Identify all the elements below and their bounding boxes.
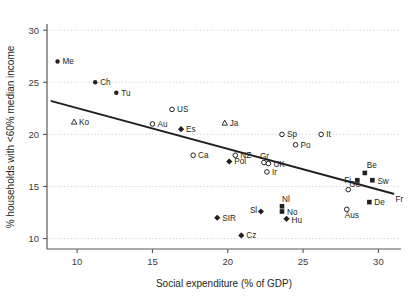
data-point-label: Cz: [246, 231, 256, 240]
marker-open-circle: [280, 132, 285, 137]
data-point-label: Nl: [282, 195, 290, 204]
data-point-label: Au: [157, 120, 167, 129]
marker-filled-circle: [93, 80, 97, 84]
x-tick-label: 25: [298, 256, 309, 267]
data-point-label: Sp: [287, 130, 297, 139]
y-tick-label: 20: [28, 129, 39, 140]
data-point-label: Pol: [234, 157, 246, 166]
marker-open-circle: [293, 143, 298, 148]
y-tick-label: 30: [28, 25, 39, 36]
x-tick-label: 20: [222, 256, 233, 267]
marker-open-circle: [150, 122, 155, 127]
data-point-label: Hu: [292, 216, 303, 225]
data-point-label: Sl: [250, 206, 257, 215]
x-tick-label: 30: [373, 256, 384, 267]
data-point-label: Sw: [377, 177, 388, 186]
data-point-label: Ge: [349, 180, 360, 189]
data-point-label: Ja: [230, 119, 239, 128]
scatter-chart: 1015202530 1015202530 MeChTuKoUSAuEsJaSp…: [0, 0, 408, 305]
data-point-label: Ir: [272, 168, 277, 177]
y-axis-title: % households with <60% median income: [5, 45, 16, 228]
marker-filled-circle: [55, 59, 59, 63]
data-point-label: Fr: [395, 195, 403, 204]
x-tick-label: 15: [147, 256, 158, 267]
data-point-label: Ca: [198, 151, 209, 160]
y-tick-label: 15: [28, 181, 39, 192]
marker-filled-square: [280, 209, 285, 214]
data-point-label: De: [374, 198, 385, 207]
data-point-label: Aus: [345, 211, 359, 220]
x-axis-title: Social expenditure (% of GDP): [156, 278, 292, 289]
data-point: Fr: [395, 195, 403, 204]
marker-filled-square: [363, 171, 368, 176]
marker-open-circle: [170, 107, 175, 112]
data-point-label: US: [177, 105, 189, 114]
data-point-label: Ch: [100, 78, 111, 87]
marker-open-circle: [266, 161, 271, 166]
data-point-label: Es: [186, 125, 196, 134]
marker-open-circle: [265, 170, 270, 175]
marker-open-circle: [191, 153, 196, 158]
data-point-label: Me: [63, 57, 75, 66]
data-point-label: Gr: [260, 152, 269, 161]
marker-filled-square: [370, 178, 375, 183]
x-tick-label: 10: [72, 256, 83, 267]
data-point-label: Po: [301, 141, 311, 150]
chart-canvas: 1015202530 1015202530 MeChTuKoUSAuEsJaSp…: [0, 0, 408, 305]
marker-open-circle: [319, 132, 324, 137]
data-point-label: Be: [367, 161, 377, 170]
marker-filled-circle: [114, 91, 118, 95]
data-point-label: It: [326, 130, 331, 139]
y-tick-label: 25: [28, 77, 39, 88]
data-point-label: SIR: [222, 214, 236, 223]
marker-filled-square: [367, 200, 372, 205]
data-point-label: Ko: [79, 118, 89, 127]
marker-open-circle: [262, 160, 267, 165]
data-point-label: Tu: [121, 89, 131, 98]
y-tick-label: 10: [28, 233, 39, 244]
marker-filled-square: [280, 204, 285, 209]
